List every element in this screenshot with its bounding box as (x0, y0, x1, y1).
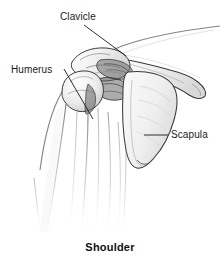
label-clavicle: Clavicle (60, 11, 96, 22)
label-scapula: Scapula (171, 129, 208, 140)
figure-caption: Shoulder (0, 241, 220, 253)
humeral-head (62, 71, 103, 114)
shoulder-anatomy-figure: Clavicle Humerus Scapula Shoulder (0, 0, 220, 263)
scapula-body (123, 72, 177, 169)
label-humerus: Humerus (11, 64, 52, 75)
